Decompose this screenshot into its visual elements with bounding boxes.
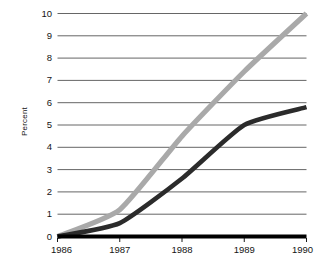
gridlines (58, 14, 307, 215)
series-line (58, 107, 307, 236)
x-axis-ticks (58, 238, 307, 242)
line-chart: Percent 012345678910 1986198719881989199… (0, 0, 328, 264)
plot-area (0, 0, 328, 264)
